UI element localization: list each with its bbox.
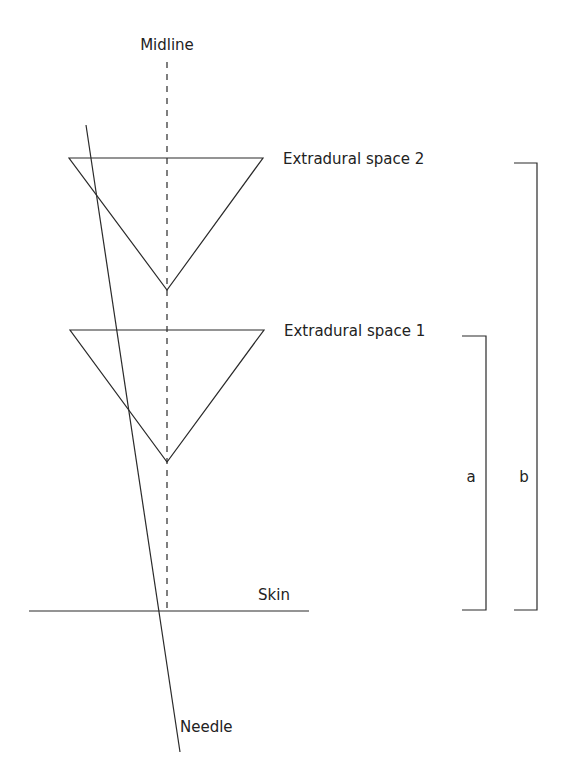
extradural-space-2-label: Extradural space 2: [283, 150, 424, 168]
skin-label: Skin: [258, 586, 290, 604]
bracket-a-label: a: [466, 468, 475, 486]
midline-label: Midline: [140, 36, 194, 54]
extradural-space-1-label: Extradural space 1: [284, 322, 425, 340]
needle-line: [86, 125, 180, 752]
bracket-b: [514, 163, 537, 610]
extradural-space-2-triangle: [69, 158, 263, 290]
bracket-b-label: b: [519, 468, 529, 486]
extradural-space-1-triangle: [70, 330, 264, 462]
needle-label: Needle: [180, 718, 233, 736]
epidural-diagram: Midline Extradural space 2 Extradural sp…: [0, 0, 563, 781]
